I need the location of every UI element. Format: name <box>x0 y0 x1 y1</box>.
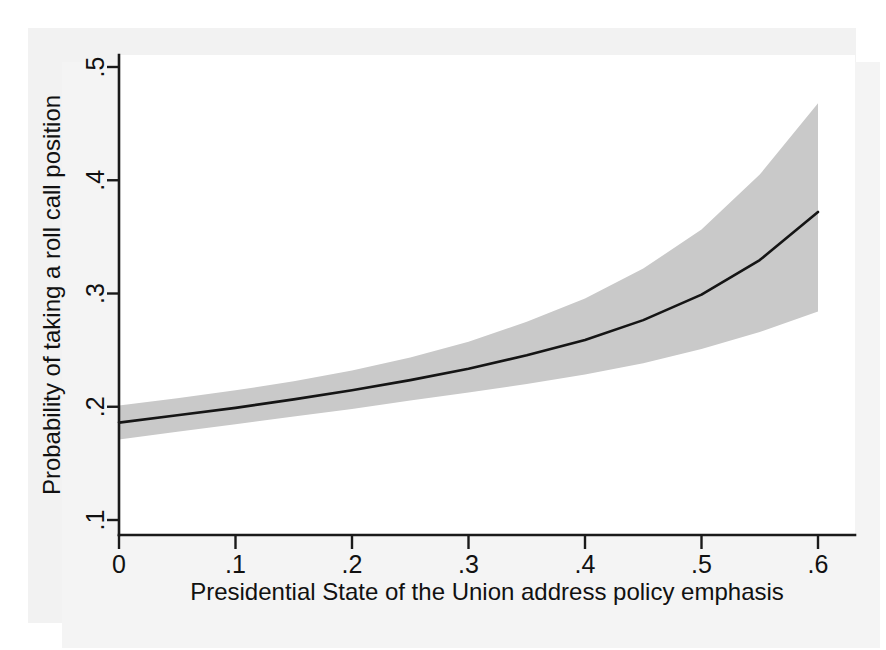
x-axis-tick-label: .1 <box>225 550 246 578</box>
y-axis-tick-label: .5 <box>81 57 109 78</box>
y-axis-tick-label: .2 <box>81 396 109 417</box>
x-axis-tick-label: .6 <box>808 550 829 578</box>
y-axis-tick-label: .1 <box>81 510 109 531</box>
figure-root: .1.2.3.4.5 0.1.2.3.4.5.6 Probability of … <box>0 0 886 650</box>
x-axis-ticks <box>119 535 818 549</box>
chart-canvas: .1.2.3.4.5 0.1.2.3.4.5.6 Probability of … <box>0 0 886 650</box>
x-axis-tick-label: .4 <box>575 550 596 578</box>
x-axis-tick-label: .3 <box>458 550 479 578</box>
y-axis-tick-label: .4 <box>81 170 109 191</box>
y-axis-tick-label: .3 <box>81 283 109 304</box>
y-axis-title: Probability of taking a roll call positi… <box>38 95 65 495</box>
y-axis-tick-labels: .1.2.3.4.5 <box>81 57 109 531</box>
x-axis-tick-label: 0 <box>112 550 126 578</box>
x-axis-title: Presidential State of the Union address … <box>190 578 784 605</box>
x-axis-tick-labels: 0.1.2.3.4.5.6 <box>112 550 828 578</box>
x-axis-tick-label: .2 <box>342 550 363 578</box>
x-axis-tick-label: .5 <box>691 550 712 578</box>
